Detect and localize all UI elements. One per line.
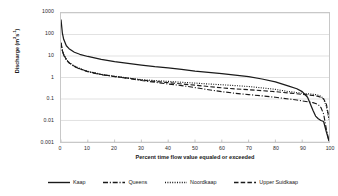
series-line-kaap [61,19,329,141]
legend-swatch-dotted-icon [165,179,187,186]
x-axis-tick-label: 90 [300,145,306,151]
y-axis-tick-labels: 10001001010.10.010.001 [0,0,58,196]
x-axis-tick-label: 30 [138,145,144,151]
x-axis-tick-label: 10 [84,145,90,151]
y-axis-tick-label: 10 [48,53,54,58]
legend-item-noordkaap[interactable]: Noordkaap [165,179,216,186]
legend-label: Kaap [73,179,86,185]
plot-area [60,12,330,143]
x-axis-tick-label: 40 [165,145,171,151]
x-axis-tick-label: 80 [273,145,279,151]
series-line-upper-suidkaap [61,43,329,118]
x-axis-tick-label: 70 [246,145,252,151]
legend-label: Queens [128,179,147,185]
x-axis-title: Percent time flow value equaled or excee… [60,154,330,161]
chart-legend: KaapQueensNoordkaapUpper Suidkaap [48,176,298,188]
y-axis-tick-label: 0.1 [46,97,54,102]
chart-figure: Discharge (m3s-1) 10001001010.10.010.001… [0,0,338,196]
y-axis-tick-label: 1 [51,75,54,80]
legend-swatch-dashed-icon [234,179,256,186]
plot-svg [61,13,329,142]
x-axis-tick-label: 60 [219,145,225,151]
x-axis-tick-label: 50 [192,145,198,151]
legend-item-queens[interactable]: Queens [103,179,147,186]
legend-item-kaap[interactable]: Kaap [48,179,86,186]
x-axis-tick-label: 20 [111,145,117,151]
x-axis-tick-label: 100 [326,145,335,151]
y-axis-tick-label: 0.001 [41,140,54,145]
series-line-noordkaap [61,43,329,120]
legend-swatch-dash-dot-icon [103,179,125,186]
series-line-queens [61,43,329,141]
legend-swatch-solid-icon [48,179,70,186]
y-axis-tick-label: 0.01 [44,119,55,124]
legend-item-upper-suidkaap[interactable]: Upper Suidkaap [234,179,298,186]
y-axis-tick-label: 1000 [42,9,54,14]
legend-label: Noordkaap [190,179,216,185]
x-axis-tick-label: 0 [59,145,62,151]
legend-label: Upper Suidkaap [259,179,298,185]
y-axis-tick-label: 100 [45,31,54,36]
